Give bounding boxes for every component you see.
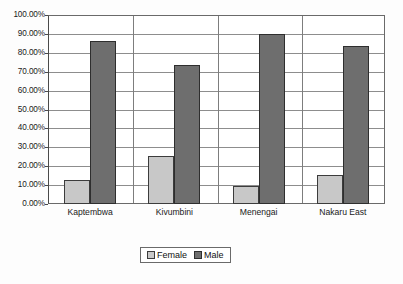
bar-chart: 0.00%10.00%20.00%30.00%40.00%50.00%60.00… — [0, 0, 403, 284]
x-axis-label-nakaru-east: Nakaru East — [301, 207, 385, 217]
chart-legend: FemaleMale — [140, 247, 231, 263]
legend-swatch-male-icon — [194, 251, 202, 259]
legend-item-male[interactable]: Male — [194, 250, 224, 260]
y-axis-tick-label: 50.00% — [18, 105, 45, 114]
y-axis-tick — [45, 204, 48, 205]
y-axis-tick-label: 10.00% — [18, 180, 45, 189]
y-axis-labels: 0.00%10.00%20.00%30.00%40.00%50.00%60.00… — [0, 15, 45, 204]
legend-label: Female — [157, 250, 187, 260]
y-axis-tick-label: 80.00% — [18, 48, 45, 57]
x-axis-label-kivumbini: Kivumbini — [132, 207, 216, 217]
y-axis-tick-label: 90.00% — [18, 29, 45, 38]
y-axis-tick-label: 20.00% — [18, 161, 45, 170]
bar-kaptembwa-female — [64, 180, 90, 204]
legend-label: Male — [204, 250, 224, 260]
legend-swatch-female-icon — [147, 251, 155, 259]
bar-menengai-female — [233, 186, 259, 204]
y-axis-tick-label: 0.00% — [22, 199, 45, 208]
y-axis-tick-label: 30.00% — [18, 142, 45, 151]
bar-kaptembwa-male — [90, 41, 116, 204]
x-axis-label-menengai: Menengai — [217, 207, 301, 217]
x-axis-labels: KaptembwaKivumbiniMenengaiNakaru East — [48, 207, 385, 223]
bars-layer — [48, 15, 385, 204]
bar-nakaru-east-female — [317, 175, 343, 204]
y-axis-tick-label: 70.00% — [18, 67, 45, 76]
legend-item-female[interactable]: Female — [147, 250, 187, 260]
bar-menengai-male — [259, 34, 285, 204]
y-axis-tick-label: 40.00% — [18, 123, 45, 132]
y-axis-tick-label: 100.00% — [13, 10, 45, 19]
y-axis-tick-label: 60.00% — [18, 86, 45, 95]
bar-nakaru-east-male — [343, 46, 369, 204]
bar-kivumbini-male — [174, 65, 200, 204]
x-axis-label-kaptembwa: Kaptembwa — [48, 207, 132, 217]
bar-kivumbini-female — [148, 156, 174, 204]
